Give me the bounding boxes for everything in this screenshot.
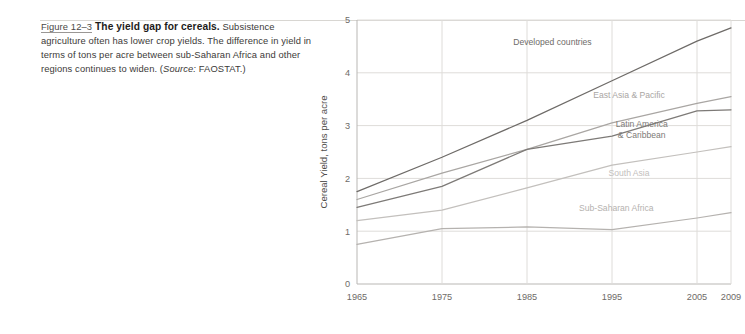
x-tick-label: 2005 bbox=[687, 292, 707, 302]
x-tick-label: 2009 bbox=[721, 292, 741, 302]
series-line-developed-countries bbox=[357, 28, 731, 192]
y-tick-label: 4 bbox=[345, 68, 350, 78]
y-tick-label: 3 bbox=[345, 121, 350, 131]
figure-number: Figure 12–3 bbox=[41, 21, 92, 33]
series-label-latin-america-caribbean: Latin America& Caribbean bbox=[616, 119, 668, 140]
figure-source-label: Source: bbox=[163, 63, 196, 74]
series-label-east-asia-pacific: East Asia & Pacific bbox=[593, 90, 665, 100]
x-tick-label: 1975 bbox=[432, 292, 452, 302]
y-tick-label: 2 bbox=[345, 174, 350, 184]
x-tick-label: 1965 bbox=[347, 292, 367, 302]
series-label-south-asia: South Asia bbox=[608, 168, 649, 178]
cereal-yield-line-chart: 012345196519751985199520052009Cereal Yie… bbox=[313, 6, 745, 328]
figure-title: The yield gap for cereals. bbox=[92, 21, 220, 32]
series-label-developed-countries: Developed countries bbox=[513, 37, 591, 47]
x-tick-label: 1995 bbox=[602, 292, 622, 302]
figure-caption: Figure 12–3 The yield gap for cereals. S… bbox=[41, 20, 313, 76]
series-line-latin-america-caribbean bbox=[357, 110, 731, 208]
y-axis-title: Cereal Yield, tons per acre bbox=[318, 95, 329, 208]
y-tick-label: 1 bbox=[345, 227, 350, 237]
chart-canvas: 012345196519751985199520052009Cereal Yie… bbox=[313, 6, 745, 328]
series-line-south-asia bbox=[357, 147, 731, 221]
series-label-sub-saharan-africa: Sub-Saharan Africa bbox=[579, 203, 654, 213]
series-line-sub-saharan-africa bbox=[357, 213, 731, 245]
figure-source-text: FAOSTAT.) bbox=[196, 63, 246, 74]
x-tick-label: 1985 bbox=[517, 292, 537, 302]
y-tick-label: 0 bbox=[345, 279, 350, 289]
y-tick-label: 5 bbox=[345, 15, 350, 25]
